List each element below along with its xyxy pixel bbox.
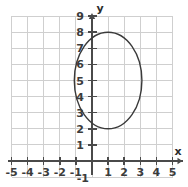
- x-tick-label: -2: [54, 166, 66, 179]
- x-tick-label: 1: [104, 166, 112, 179]
- origin-negative-one-label: -1: [77, 172, 89, 185]
- x-tick-label: -3: [38, 166, 50, 179]
- coordinate-plane-figure: -5-4-3-2-112345987654321-1 x y: [0, 0, 188, 187]
- x-tick-label: -5: [5, 166, 17, 179]
- y-tick-label: 2: [76, 123, 84, 136]
- y-axis-label: y: [96, 2, 103, 15]
- x-tick-label: 4: [153, 166, 161, 179]
- y-tick-label: 8: [76, 26, 84, 39]
- coordinate-plane-svg: -5-4-3-2-112345987654321-1 x y: [0, 0, 188, 187]
- x-axis-arrow: [178, 158, 183, 164]
- y-tick-label: 9: [76, 10, 84, 23]
- x-tick-label: -4: [21, 166, 34, 179]
- x-tick-label: 3: [136, 166, 144, 179]
- x-axis-label: x: [174, 145, 181, 158]
- y-tick-label: 5: [76, 75, 84, 88]
- y-tick-label: 1: [76, 139, 84, 152]
- tick-labels: -5-4-3-2-112345987654321-1: [5, 10, 176, 185]
- x-tick-label: 5: [169, 166, 177, 179]
- x-tick-label: 2: [120, 166, 128, 179]
